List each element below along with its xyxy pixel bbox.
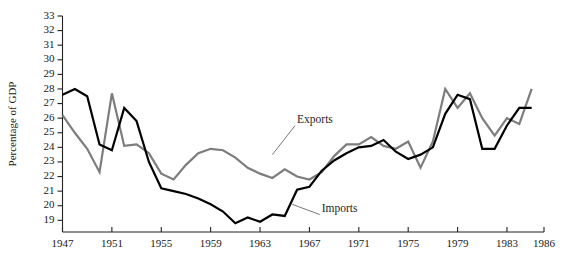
x-axis-ticks: 1947195119551959196319671971197519791983… <box>52 227 556 249</box>
series-line-exports <box>63 89 532 179</box>
y-tick-label: 19 <box>44 213 56 225</box>
chart-figure: 192021222324252627282930313233 Percentag… <box>0 0 576 266</box>
y-tick-label: 30 <box>44 52 56 64</box>
x-tick-label: 1947 <box>52 237 75 249</box>
x-tick-label: 1983 <box>496 237 519 249</box>
series-group <box>63 89 532 223</box>
y-tick-label: 23 <box>44 154 56 166</box>
x-tick-label: 1979 <box>447 237 470 249</box>
x-tick-label: 1955 <box>150 237 173 249</box>
x-tick-label: 1967 <box>298 237 321 249</box>
y-tick-label: 33 <box>44 9 56 21</box>
y-tick-label: 32 <box>44 23 55 35</box>
y-tick-label: 22 <box>44 169 55 181</box>
y-tick-label: 24 <box>44 140 56 152</box>
y-axis-ticks: 192021222324252627282930313233 <box>44 9 63 225</box>
annotations-group: ExportsImports <box>272 113 358 215</box>
annotation-leader-line-exports <box>272 126 295 155</box>
y-axis-group: 192021222324252627282930313233 Percentag… <box>6 9 63 232</box>
y-tick-label: 20 <box>44 198 56 210</box>
annotation-label-imports: Imports <box>322 202 358 215</box>
x-tick-label: 1951 <box>101 237 123 249</box>
x-tick-label: 1986 <box>533 237 556 249</box>
x-tick-label: 1975 <box>397 237 420 249</box>
y-tick-label: 27 <box>44 96 56 108</box>
x-tick-label: 1963 <box>249 237 272 249</box>
y-tick-label: 21 <box>44 184 55 196</box>
annotation-leader-line-imports <box>292 204 320 214</box>
series-line-imports <box>63 89 532 223</box>
x-tick-label: 1959 <box>200 237 223 249</box>
y-tick-label: 26 <box>44 111 56 123</box>
annotation-label-exports: Exports <box>297 113 333 126</box>
x-tick-label: 1971 <box>348 237 370 249</box>
y-tick-label: 29 <box>44 67 56 79</box>
x-axis-group: 1947195119551959196319671971197519791983… <box>52 227 556 249</box>
line-chart-canvas: 192021222324252627282930313233 Percentag… <box>0 0 576 266</box>
y-axis-title: Percentage of GDP <box>6 82 18 167</box>
y-tick-label: 25 <box>44 125 56 137</box>
y-tick-label: 28 <box>44 82 56 94</box>
y-tick-label: 31 <box>44 38 55 50</box>
